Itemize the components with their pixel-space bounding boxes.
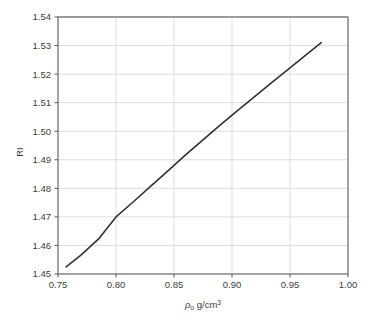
x-tick-label: 0.90 <box>223 279 242 290</box>
x-axis-title: ρo g/cm3 <box>184 299 221 312</box>
x-tick-label: 1.00 <box>339 279 358 290</box>
y-tick-label: 1.47 <box>33 211 52 222</box>
y-tick-label: 1.53 <box>33 40 52 51</box>
y-tick-label: 1.46 <box>33 240 52 251</box>
y-tick-label: 1.45 <box>33 268 52 279</box>
x-axis-title-superscript: 3 <box>217 299 221 306</box>
line-chart: 1.451.461.471.481.491.501.511.521.531.54… <box>0 0 375 324</box>
y-axis-title: RI <box>14 147 25 157</box>
y-tick-label: 1.49 <box>33 154 52 165</box>
x-tick-label: 0.80 <box>107 279 126 290</box>
chart-figure: 1.451.461.471.481.491.501.511.521.531.54… <box>0 0 375 324</box>
y-tick-label: 1.52 <box>33 69 52 80</box>
x-tick-label: 0.95 <box>281 279 300 290</box>
x-tick-label: 0.75 <box>49 279 68 290</box>
y-tick-label: 1.51 <box>33 97 52 108</box>
y-tick-label: 1.54 <box>33 11 52 22</box>
y-tick-label: 1.50 <box>33 126 52 137</box>
y-tick-label: 1.48 <box>33 183 52 194</box>
x-tick-label: 0.85 <box>165 279 184 290</box>
x-axis-title-unit: g/cm <box>194 299 217 310</box>
